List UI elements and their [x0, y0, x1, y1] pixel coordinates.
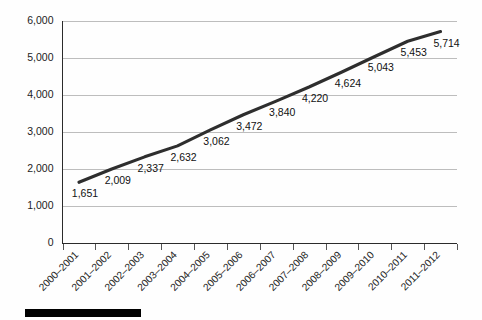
data-point-label: 5,043: [368, 61, 394, 73]
data-point-label: 2,009: [105, 174, 131, 186]
y-axis-tick-label: 3,000: [27, 125, 53, 137]
line-chart-figure: 01,0002,0003,0004,0005,0006,000 1,6512,0…: [0, 0, 482, 320]
y-axis-tick-label: 4,000: [27, 88, 53, 100]
data-point-label: 3,840: [269, 106, 295, 118]
data-point-label: 2,632: [170, 151, 196, 163]
y-axis-tick-label: 1,000: [27, 199, 53, 211]
footer-divider-rule: [25, 309, 141, 317]
data-point-label: 4,624: [335, 77, 361, 89]
chart-canvas: 01,0002,0003,0004,0005,0006,000 1,6512,0…: [0, 0, 482, 320]
data-point-label: 5,453: [401, 46, 427, 58]
y-axis-tick-label: 2,000: [27, 162, 53, 174]
data-point-label: 1,651: [72, 187, 98, 199]
data-point-label: 2,337: [138, 162, 164, 174]
data-point-label: 3,062: [203, 135, 229, 147]
data-point-label: 4,220: [302, 92, 328, 104]
y-axis-tick-label: 5,000: [27, 51, 53, 63]
y-axis-tick-label: 0: [48, 236, 54, 248]
data-point-label: 5,714: [433, 37, 459, 49]
data-point-label: 3,472: [236, 120, 262, 132]
y-axis-tick-label: 6,000: [27, 14, 53, 26]
